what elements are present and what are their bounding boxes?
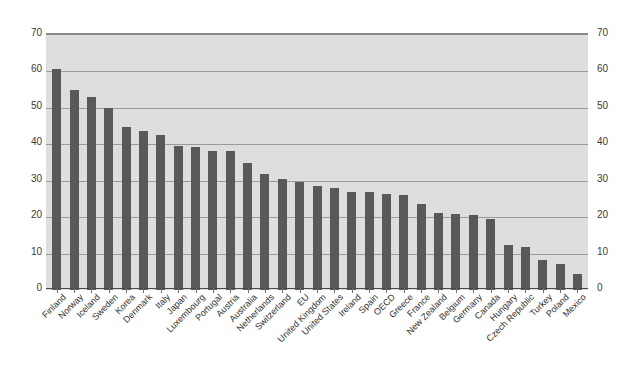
bar-austria[interactable] (226, 151, 235, 290)
bar-finland[interactable] (52, 69, 61, 290)
bar-italy[interactable] (156, 135, 165, 290)
y-tick-label-right-0: 0 (597, 283, 627, 293)
bar-slot (517, 35, 534, 290)
bar-slot (170, 35, 187, 290)
bar-slot (308, 35, 325, 290)
y-tick-label-left-0: 0 (12, 283, 42, 293)
y-tick-label-left-40: 40 (12, 137, 42, 147)
bar-slot (100, 35, 117, 290)
bar-denmark[interactable] (139, 131, 148, 290)
bar-ireland[interactable] (347, 192, 356, 290)
bar-series (46, 35, 588, 290)
y-tick-label-left-20: 20 (12, 210, 42, 220)
bar-slot (413, 35, 430, 290)
bar-slot (117, 35, 134, 290)
bar-slot (343, 35, 360, 290)
y-tick-label-right-10: 10 (597, 247, 627, 257)
bar-slot (222, 35, 239, 290)
bar-belgium[interactable] (451, 214, 460, 290)
bar-poland[interactable] (556, 264, 565, 290)
bar-slot (378, 35, 395, 290)
bar-slot (65, 35, 82, 290)
bar-luxembourg[interactable] (191, 147, 200, 290)
y-tick-label-left-50: 50 (12, 101, 42, 111)
bar-iceland[interactable] (87, 97, 96, 290)
bar-slot (447, 35, 464, 290)
bar-united-states[interactable] (330, 188, 339, 290)
bar-slot (291, 35, 308, 290)
bar-portugal[interactable] (208, 151, 217, 290)
y-tick-label-left-60: 60 (12, 64, 42, 74)
y-tick-label-left-70: 70 (12, 28, 42, 38)
bar-slot (482, 35, 499, 290)
bar-norway[interactable] (70, 90, 79, 290)
bar-slot (465, 35, 482, 290)
bar-slot (430, 35, 447, 290)
y-tick-label-right-50: 50 (597, 101, 627, 111)
y-tick-label-right-30: 30 (597, 174, 627, 184)
plot-area (46, 33, 588, 290)
bar-slot (135, 35, 152, 290)
bar-slot (274, 35, 291, 290)
bar-greece[interactable] (399, 195, 408, 290)
bar-slot (239, 35, 256, 290)
bar-eu[interactable] (295, 182, 304, 290)
bar-slot (551, 35, 568, 290)
bar-france[interactable] (417, 204, 426, 290)
bar-switzerland[interactable] (278, 179, 287, 290)
bar-slot (395, 35, 412, 290)
bar-slot (256, 35, 273, 290)
bar-slot (83, 35, 100, 290)
bar-slot (360, 35, 377, 290)
y-tick-label-right-70: 70 (597, 28, 627, 38)
bar-turkey[interactable] (538, 260, 547, 290)
bar-slot (48, 35, 65, 290)
bar-czech-republic[interactable] (521, 247, 530, 290)
bar-slot (499, 35, 516, 290)
bar-japan[interactable] (174, 146, 183, 290)
bar-slot (187, 35, 204, 290)
bar-australia[interactable] (243, 163, 252, 291)
y-tick-label-right-60: 60 (597, 64, 627, 74)
bar-netherlands[interactable] (260, 174, 269, 290)
y-tick-label-left-30: 30 (12, 174, 42, 184)
bar-oecd[interactable] (382, 194, 391, 290)
y-tick-label-right-20: 20 (597, 210, 627, 220)
bar-korea[interactable] (122, 127, 131, 290)
y-tick-label-right-40: 40 (597, 137, 627, 147)
bar-slot (534, 35, 551, 290)
x-axis-labels: FinlandNorwayIcelandSwedenKoreaDenmarkIt… (46, 292, 588, 375)
bar-slot (569, 35, 586, 290)
bar-spain[interactable] (365, 192, 374, 290)
bar-slot (152, 35, 169, 290)
bar-slot (204, 35, 221, 290)
bar-germany[interactable] (469, 215, 478, 290)
bar-canada[interactable] (486, 219, 495, 290)
bar-hungary[interactable] (504, 245, 513, 290)
bar-chart: 010203040506070 010203040506070 FinlandN… (0, 0, 631, 375)
bar-united-kingdom[interactable] (313, 186, 322, 290)
y-tick-label-left-10: 10 (12, 247, 42, 257)
bar-slot (326, 35, 343, 290)
bar-new-zealand[interactable] (434, 213, 443, 290)
bar-sweden[interactable] (104, 108, 113, 290)
